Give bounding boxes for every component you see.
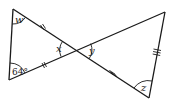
label-z: z — [140, 82, 147, 93]
double-tick-upper-left — [41, 24, 46, 30]
label-x: x — [56, 43, 62, 54]
triple-tick-right-side — [153, 49, 161, 56]
side-a-d — [13, 9, 149, 98]
triple-tick-lower-right — [110, 70, 118, 78]
geometry-diagram: w 64° x y z — [0, 0, 174, 108]
label-y: y — [88, 45, 95, 56]
label-64-degrees: 64° — [12, 67, 28, 77]
label-w: w — [15, 14, 24, 25]
angle-arcs — [10, 17, 152, 88]
